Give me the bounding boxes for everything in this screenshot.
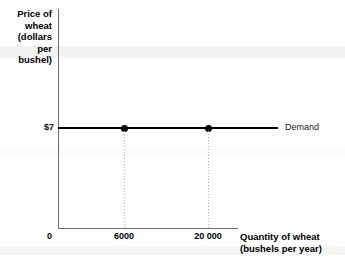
x-tick-label: 20 000	[194, 231, 222, 241]
scan-artifact-band	[0, 150, 345, 156]
y-axis-title-line: wheat	[0, 20, 52, 32]
x-axis-line	[58, 228, 238, 229]
x-axis-title-line: Quantity of wheat	[240, 231, 345, 243]
demand-curve-label: Demand	[285, 122, 319, 132]
y-axis-title-line: per	[0, 43, 52, 55]
y-axis-title: Price of wheat (dollars per bushel)	[0, 8, 52, 66]
dropline	[208, 131, 209, 228]
demand-curve-line	[58, 127, 278, 129]
y-tick-label-price: $7	[14, 122, 54, 132]
x-axis-title-line: (bushels per year)	[240, 243, 345, 255]
y-axis-title-line: bushel)	[0, 54, 52, 66]
y-axis-line	[58, 9, 59, 229]
x-axis-title: Quantity of wheat (bushels per year)	[240, 231, 345, 254]
y-axis-title-line: (dollars	[0, 31, 52, 43]
y-axis-title-line: Price of	[0, 8, 52, 20]
dropline	[124, 131, 125, 228]
chart-figure: Price of wheat (dollars per bushel) $7 D…	[0, 0, 345, 267]
x-tick-label: 6000	[114, 231, 134, 241]
origin-label: 0	[47, 231, 52, 241]
